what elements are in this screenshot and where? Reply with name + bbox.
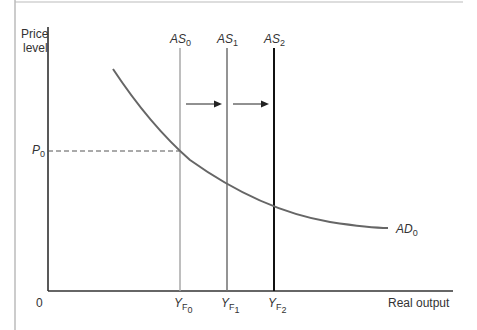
shift-arrow-2: [233, 101, 269, 108]
x-axis-label: Real output: [388, 296, 449, 310]
diagram-canvas: [0, 0, 477, 330]
yf0-label: YF0: [174, 296, 193, 315]
yf2-label: YF2: [268, 296, 287, 315]
y-axis-label-line1: Price: [21, 27, 48, 41]
as0-label: AS0: [170, 32, 191, 48]
yf1-label: YF1: [221, 296, 240, 315]
p0-label: P0: [32, 143, 45, 159]
ad0-curve: [113, 69, 388, 228]
shift-arrow-1: [186, 101, 222, 108]
ad0-label: AD0: [396, 222, 418, 238]
as2-label: AS2: [264, 32, 285, 48]
y-axis-label-line2: level: [23, 41, 48, 55]
as1-label: AS1: [217, 32, 238, 48]
origin-label: 0: [36, 296, 43, 310]
